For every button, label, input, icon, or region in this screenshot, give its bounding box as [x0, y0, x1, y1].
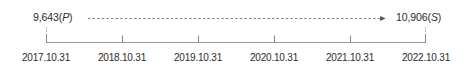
tick-label-2020: 2020.10.31 [250, 52, 298, 63]
timeline-figure: 9,643(P) 10,906(S) 2017.10.31 2018.10.31… [0, 0, 469, 70]
tick-label-2017: 2017.10.31 [22, 52, 70, 63]
tick-label-2021: 2021.10.31 [326, 52, 374, 63]
tick-label-2022: 2022.10.31 [402, 52, 450, 63]
tick-label-2018: 2018.10.31 [98, 52, 146, 63]
axis-graphics [0, 0, 469, 70]
tick-label-2019: 2019.10.31 [174, 52, 222, 63]
